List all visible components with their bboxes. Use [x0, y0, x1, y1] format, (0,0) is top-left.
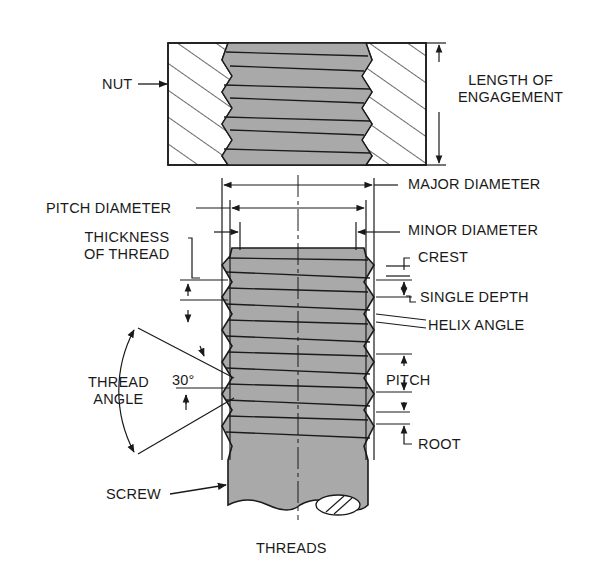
thread-angle-label: THREAD ANGLE [88, 374, 149, 408]
thread-angle-value: 30° [172, 372, 195, 389]
nut-label: NUT [102, 76, 132, 93]
helix-angle-label: HELIX ANGLE [428, 317, 525, 334]
single-depth-label: SINGLE DEPTH [420, 289, 529, 306]
thread-diagram: NUT LENGTH OF ENGAGEMENT MAJOR DIAMETER … [0, 0, 595, 579]
major-diameter-label: MAJOR DIAMETER [408, 176, 541, 193]
nut [138, 43, 446, 165]
pitch-diameter-label: PITCH DIAMETER [46, 200, 171, 217]
pitch-label: PITCH [386, 372, 431, 389]
length-of-engagement-label: LENGTH OF ENGAGEMENT [458, 72, 563, 106]
crest-label: CREST [418, 249, 468, 266]
diagram-title: THREADS [256, 540, 327, 557]
root-label: ROOT [418, 436, 461, 453]
thickness-of-thread-label: THICKNESS OF THREAD [84, 229, 169, 263]
minor-diameter-label: MINOR DIAMETER [408, 222, 538, 239]
screw-label: SCREW [106, 486, 161, 503]
